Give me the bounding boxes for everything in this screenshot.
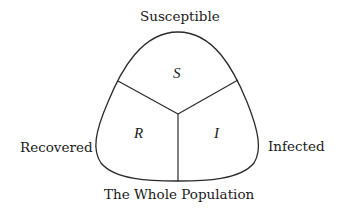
population-shape (0, 0, 341, 211)
label-recovered: Recovered (20, 141, 93, 155)
label-whole-population: The Whole Population (104, 188, 254, 202)
population-boundary (96, 32, 259, 181)
divider-s-i (178, 80, 238, 114)
divider-s-r (118, 81, 178, 114)
compartment-s: S (173, 66, 181, 81)
label-susceptible: Susceptible (140, 10, 220, 24)
sir-diagram: Susceptible Recovered Infected The Whole… (0, 0, 341, 211)
label-infected: Infected (268, 140, 325, 154)
compartment-i: I (214, 126, 219, 141)
compartment-r: R (134, 126, 143, 141)
